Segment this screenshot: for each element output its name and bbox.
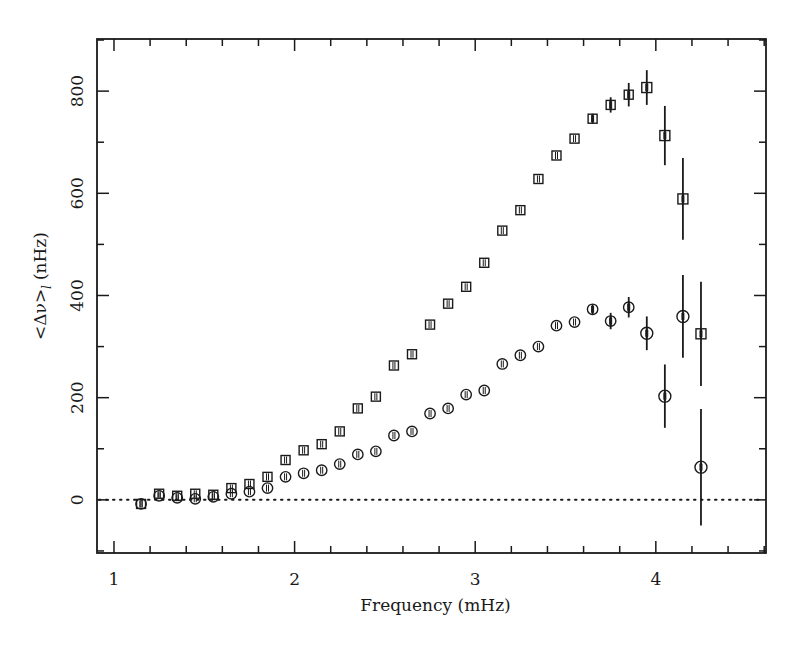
circle-marker: [425, 408, 435, 418]
scatter-chart: 12340200400600800 Frequency (mHz) <Δν>l(…: [0, 0, 805, 656]
data-point: [570, 134, 579, 143]
x-tick-label: 1: [109, 569, 120, 589]
data-point: [299, 446, 308, 455]
data-point: [479, 385, 489, 395]
data-point: [443, 403, 453, 413]
square-marker: [371, 392, 380, 401]
circle-marker: [298, 468, 308, 478]
y-tick-label: 800: [67, 75, 87, 107]
y-axis-label: <Δν>l(nHz): [30, 232, 54, 340]
data-point: [695, 409, 707, 525]
data-point: [624, 83, 633, 107]
circle-marker: [280, 472, 290, 482]
data-point: [677, 275, 689, 358]
circle-marker: [533, 341, 543, 351]
circle-marker: [551, 320, 561, 330]
data-point: [172, 493, 182, 503]
data-point: [280, 472, 290, 482]
square-marker: [444, 299, 453, 308]
square-marker: [498, 226, 507, 235]
data-point: [226, 489, 236, 499]
y-tick-label: 200: [67, 381, 87, 413]
data-point: [696, 282, 706, 386]
data-point: [389, 430, 399, 440]
data-point: [660, 106, 670, 165]
square-marker: [570, 134, 579, 143]
data-point: [515, 350, 525, 360]
circle-marker: [371, 446, 381, 456]
plot-area: [99, 70, 764, 525]
data-point: [497, 359, 507, 369]
y-tick-label: 600: [67, 177, 87, 209]
circle-marker: [316, 465, 326, 475]
square-marker: [462, 282, 471, 291]
data-point: [262, 483, 272, 493]
y-tick-label: 0: [67, 494, 87, 505]
data-point: [263, 472, 272, 481]
y-axis-label-units: (nHz): [30, 232, 50, 280]
data-point: [569, 317, 579, 327]
x-tick-label: 3: [470, 569, 481, 589]
square-marker: [263, 472, 272, 481]
data-point: [534, 174, 543, 183]
data-point: [587, 304, 597, 314]
x-axis-label: Frequency (mHz): [360, 595, 511, 615]
data-point: [606, 97, 615, 112]
data-point: [642, 70, 652, 105]
data-point: [533, 341, 543, 351]
circle-marker: [154, 491, 164, 501]
circle-marker: [172, 493, 182, 503]
y-tick-label: 400: [67, 279, 87, 311]
square-marker: [389, 361, 398, 370]
circle-marker: [479, 385, 489, 395]
data-point: [678, 158, 688, 240]
square-marker: [426, 320, 435, 329]
circle-marker: [389, 430, 399, 440]
circle-marker: [353, 449, 363, 459]
data-point: [353, 449, 363, 459]
x-tick-label: 4: [650, 569, 661, 589]
circle-marker: [569, 317, 579, 327]
data-point: [461, 389, 471, 399]
data-point: [316, 465, 326, 475]
data-point: [425, 408, 435, 418]
data-point: [480, 258, 489, 267]
data-point: [281, 456, 290, 465]
square-marker: [516, 206, 525, 215]
data-point: [335, 459, 345, 469]
data-point: [154, 491, 164, 501]
circle-marker: [443, 403, 453, 413]
data-point: [407, 426, 417, 436]
data-point: [444, 299, 453, 308]
square-marker: [480, 258, 489, 267]
square-marker: [335, 427, 344, 436]
data-point: [353, 404, 362, 413]
square-marker: [353, 404, 362, 413]
data-point: [641, 316, 653, 350]
data-point: [516, 206, 525, 215]
data-point: [605, 313, 615, 329]
circle-marker: [262, 483, 272, 493]
series-circles: [136, 275, 707, 525]
data-point: [407, 350, 416, 359]
data-point: [552, 151, 561, 160]
circle-marker: [461, 389, 471, 399]
data-point: [426, 320, 435, 329]
y-axis-label-main: <Δν>: [30, 289, 50, 340]
data-point: [588, 114, 597, 124]
data-point: [335, 427, 344, 436]
square-marker: [407, 350, 416, 359]
axis-tick-labels: 12340200400600800: [67, 75, 661, 589]
data-point: [462, 282, 471, 291]
circle-marker: [407, 426, 417, 436]
square-marker: [299, 446, 308, 455]
square-marker: [281, 456, 290, 465]
series-squares: [137, 70, 706, 508]
y-axis-label-subscript: l: [40, 285, 54, 289]
data-point: [498, 226, 507, 235]
data-point: [551, 320, 561, 330]
data-point: [659, 364, 671, 427]
square-marker: [534, 174, 543, 183]
square-marker: [552, 151, 561, 160]
data-point: [389, 361, 398, 370]
